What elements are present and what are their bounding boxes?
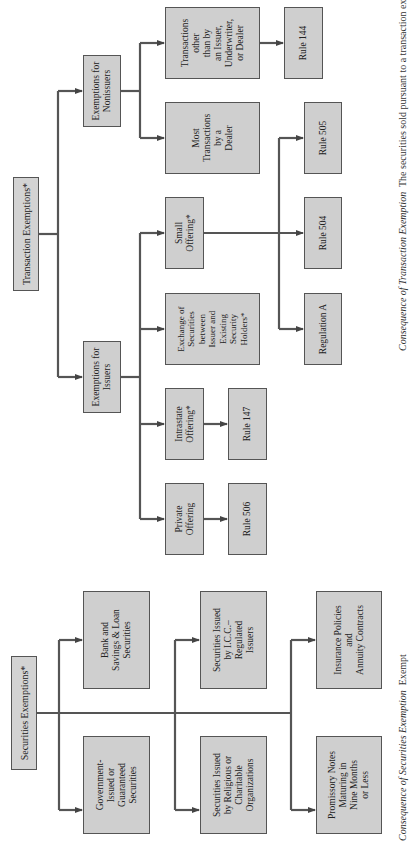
most-transactions-by-dealer: Most Transactions by a Dealer [165, 102, 260, 174]
transaction-exemption-caption: Consequence of Transaction Exemption The… [397, 0, 408, 351]
securities-exemption-caption: Consequence of Securities Exemption Exem… [397, 654, 408, 841]
transaction-caption-text: The securities sold pursuant to a transa… [397, 0, 408, 187]
icc-regulated-securities: Securities Issued by I.C.C.– Regulated I… [200, 591, 267, 689]
securities-caption-italic: Consequence of Securities Exemption [397, 690, 408, 841]
transactions-other-than-issuer: Transactions other than by an Issuer, Un… [165, 7, 260, 79]
rule-147: Rule 147 [228, 388, 267, 460]
regulation-a: Regulation A [304, 293, 342, 365]
rule-144: Rule 144 [284, 7, 323, 79]
exemptions-for-issuers: Exemptions for Issuers [83, 341, 121, 413]
private-offering: Private Offering [165, 483, 204, 555]
securities-exemptions-root: Securities Exemptions* [11, 656, 37, 770]
promissory-notes: Promissory Notes Maturing in Nine Months… [316, 736, 382, 834]
intrastate-offering: Intrastate Offering* [165, 388, 204, 460]
exemptions-for-nonissuers: Exemptions for Nonissuers [83, 55, 121, 127]
exemptions-diagram: Securities Exemptions* Government- Issue… [0, 0, 411, 851]
religious-charitable-securities: Securities Issued by Religious or Charit… [200, 736, 267, 834]
small-offering: Small Offering* [165, 197, 204, 269]
exchange-of-securities: Exchange of Securities between Issuer an… [165, 293, 260, 365]
government-issued-securities: Government- Issued or Guaranteed Securit… [83, 736, 150, 834]
rule-506: Rule 506 [228, 483, 267, 555]
rule-504: Rule 504 [304, 197, 342, 269]
rule-505: Rule 505 [304, 102, 342, 174]
transaction-caption-italic: Consequence of Transaction Exemption [397, 192, 408, 351]
bank-savings-loan-securities: Bank and Savings & Loan Securities [83, 591, 150, 689]
transaction-exemptions-root: Transaction Exemptions* [13, 177, 39, 291]
securities-caption-text: Exempt [397, 654, 408, 685]
insurance-annuity-contracts: Insurance Policies and Annuity Contracts [316, 591, 382, 689]
